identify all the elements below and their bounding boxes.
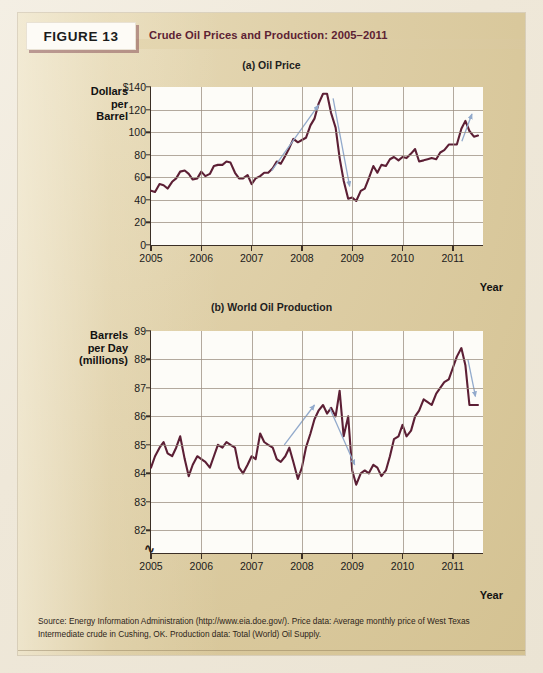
chart-a-xaxis-title: Year	[480, 281, 503, 293]
x-tick-label: 2006	[190, 252, 213, 264]
x-tick-label: 2010	[391, 252, 414, 264]
x-tick-label: 2005	[139, 560, 162, 572]
chart-b-ylabel: Barrels per Day (millions)	[28, 329, 128, 367]
gridline-vertical	[352, 87, 353, 245]
y-axis-break-icon: ∿	[144, 541, 155, 556]
x-tick-label: 2011	[442, 252, 465, 264]
y-tick-label: 60	[134, 171, 146, 183]
y-tick-mark	[146, 501, 151, 502]
chart-b-ylabel-line-2: per Day	[28, 342, 128, 355]
y-tick-label: 80	[134, 149, 146, 161]
figure-panel: FIGURE 13 Crude Oil Prices and Productio…	[18, 13, 525, 655]
gridline-vertical	[302, 87, 303, 245]
x-tick-mark	[150, 245, 151, 251]
gridline-vertical	[403, 331, 404, 553]
y-tick-label: 120	[128, 104, 146, 116]
chart-b-subtitle: (b) World Oil Production	[18, 301, 525, 313]
y-tick-label: 20	[134, 216, 146, 228]
x-tick-mark	[402, 553, 403, 559]
chart-b-xaxis-title: Year	[480, 589, 503, 601]
x-tick-mark	[452, 553, 453, 559]
chart-a-subtitle: (a) Oil Price	[18, 59, 525, 71]
source-divider	[18, 650, 525, 651]
x-tick-label: 2009	[341, 252, 364, 264]
x-tick-mark	[201, 553, 202, 559]
gridline-vertical	[352, 331, 353, 553]
figure-label-box: FIGURE 13	[26, 22, 136, 50]
chart-b-plot-area: 8988878685848382200520062007200820092010…	[150, 331, 483, 554]
y-tick-mark	[146, 359, 151, 360]
x-tick-label: 2005	[139, 252, 162, 264]
chart-b-ylabel-line-3: (millions)	[28, 354, 128, 367]
y-tick-mark	[146, 473, 151, 474]
figure-page: FIGURE 13 Crude Oil Prices and Productio…	[0, 0, 543, 673]
annotation-arrow	[462, 114, 472, 141]
chart-a-ylabel-line-3: Barrel	[36, 110, 128, 123]
x-tick-mark	[201, 245, 202, 251]
gridline-vertical	[453, 331, 454, 553]
y-tick-label: 84	[134, 467, 146, 479]
y-tick-mark	[146, 199, 151, 200]
gridline-vertical	[453, 87, 454, 245]
y-tick-mark	[146, 222, 151, 223]
x-tick-mark	[251, 553, 252, 559]
gridline-vertical	[302, 331, 303, 553]
y-tick-label: 85	[134, 439, 146, 451]
x-tick-label: 2007	[240, 560, 263, 572]
x-tick-label: 2006	[190, 560, 213, 572]
x-tick-label: 2008	[290, 252, 313, 264]
y-tick-mark	[146, 444, 151, 445]
gridline-vertical	[252, 87, 253, 245]
y-tick-label: 86	[134, 410, 146, 422]
y-tick-label: 82	[134, 524, 146, 536]
chart-a-ylabel: Dollars per Barrel	[36, 85, 128, 123]
y-tick-label: 87	[134, 382, 146, 394]
y-tick-mark	[146, 530, 151, 531]
y-tick-label: 88	[134, 353, 146, 365]
y-tick-mark	[146, 416, 151, 417]
x-tick-mark	[352, 553, 353, 559]
y-tick-mark	[146, 131, 151, 132]
figure-label: FIGURE 13	[43, 29, 118, 44]
y-tick-label: 89	[134, 325, 146, 337]
y-tick-mark	[146, 177, 151, 178]
y-tick-label: 100	[128, 126, 146, 138]
y-tick-mark	[146, 330, 151, 331]
chart-world-oil-production: (b) World Oil Production Barrels per Day…	[18, 301, 525, 601]
y-tick-label: 40	[134, 194, 146, 206]
gridline-vertical	[403, 87, 404, 245]
chart-b-ylabel-line-1: Barrels	[28, 329, 128, 342]
chart-a-ylabel-line-1: Dollars	[36, 85, 128, 98]
annotation-arrow	[284, 405, 314, 445]
x-tick-label: 2010	[391, 560, 414, 572]
x-tick-mark	[402, 245, 403, 251]
gridline-vertical	[201, 331, 202, 553]
x-tick-label: 2007	[240, 252, 263, 264]
y-tick-mark	[146, 154, 151, 155]
x-tick-mark	[301, 553, 302, 559]
figure-source-note: Source: Energy Information Administratio…	[38, 615, 509, 641]
y-tick-label: $140	[123, 81, 146, 93]
gridline-vertical	[252, 331, 253, 553]
chart-oil-price: (a) Oil Price Dollars per Barrel $140120…	[18, 59, 525, 299]
x-tick-label: 2011	[442, 560, 465, 572]
chart-a-ylabel-line-2: per	[36, 98, 128, 111]
x-tick-mark	[452, 245, 453, 251]
chart-a-plot-area: $140120100806040200200520062007200820092…	[150, 87, 483, 246]
annotation-arrow	[272, 105, 319, 170]
gridline-vertical	[201, 87, 202, 245]
y-tick-mark	[146, 109, 151, 110]
y-tick-label: 83	[134, 496, 146, 508]
x-tick-mark	[251, 245, 252, 251]
y-tick-mark	[146, 387, 151, 388]
x-tick-label: 2009	[341, 560, 364, 572]
figure-title: Crude Oil Prices and Production: 2005–20…	[149, 29, 388, 41]
x-tick-mark	[301, 245, 302, 251]
x-tick-label: 2008	[290, 560, 313, 572]
y-tick-mark	[146, 86, 151, 87]
x-tick-mark	[352, 245, 353, 251]
